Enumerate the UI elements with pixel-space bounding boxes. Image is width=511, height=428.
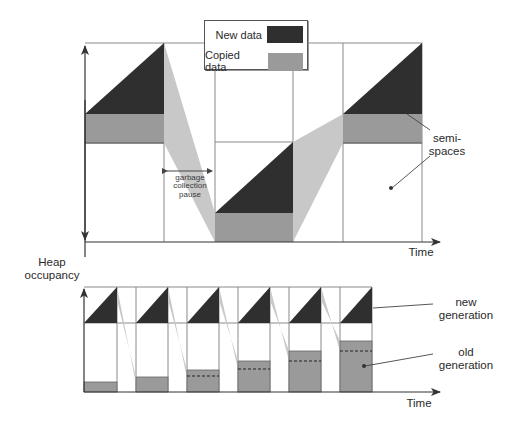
copied-data-block [85,114,164,143]
old-generation-dot [362,364,366,368]
gc-pause-label: garbage collection pause [167,174,213,199]
y-axis-line: occupancy [20,269,84,282]
new-generation-line: new [433,296,499,309]
copy-flow-2 [293,114,343,242]
semi-spaces-leader-2 [392,156,430,188]
new-data-triangle [343,43,422,114]
y-axis-line: Heap [20,256,84,269]
top-panel [85,43,440,257]
new-generation-leader [373,304,433,308]
top-time-label: Time [403,246,439,259]
old-generation-blocks [84,341,372,392]
legend: New data Copied data [204,20,308,70]
y-axis-label: Heap occupancy [20,256,84,281]
old-generation-leader [365,354,433,366]
legend-label: Copied data [205,49,263,73]
old-generation-line: old [433,346,499,359]
semi-spaces-line: semi- [422,132,472,145]
semi-spaces-line: spaces [422,145,472,158]
legend-item-new-data: New data [216,26,303,43]
new-generation-triangles [84,287,372,323]
semi-spaces-dot [389,186,393,190]
legend-item-copied-data: Copied data [205,49,303,73]
bottom-time-label: Time [401,397,437,410]
new-data-triangle [215,142,293,213]
old-generation-label: old generation [433,346,499,371]
gc-pause-line: pause [167,191,213,199]
new-generation-label: new generation [433,296,499,321]
legend-label: New data [216,29,262,41]
semi-spaces-label: semi- spaces [422,132,472,157]
gc-heap-occupancy-diagram: New data Copied data garbage collection … [0,0,511,428]
old-generation-line: generation [433,359,499,372]
bottom-panel [84,287,440,392]
copied-data-block [215,213,293,242]
copied-data-block [343,114,422,143]
new-data-triangle [85,43,164,114]
new-generation-line: generation [433,309,499,322]
copied-data-swatch [268,53,303,70]
new-data-swatch [267,26,303,43]
